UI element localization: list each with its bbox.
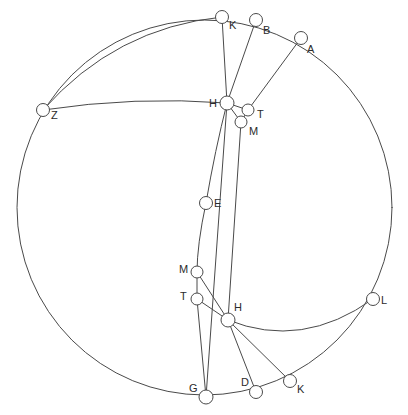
vertex-label-h-upper: H [209,97,217,109]
segment-A-T-upper [248,38,301,110]
vertex-label-t-lower: T [180,290,187,302]
vertex-node-t-lower[interactable] [191,293,203,305]
vertex-label-a-top: A [307,43,315,55]
vertex-node-z-left[interactable] [37,104,50,117]
vertex-node-d-bottom[interactable] [250,386,263,399]
vertex-node-h-lower[interactable] [221,313,235,327]
arc-Z-to-H-upper [43,101,227,110]
segment-M-upper-H-lower [228,122,241,320]
vertex-node-h-upper[interactable] [220,96,234,110]
arc-E-chain-lower [197,203,206,272]
vertex-label-m-lower: M [179,263,188,275]
vertex-label-k-top: K [229,19,237,31]
geometry-canvas: KBAZHTMEMTHLGDK [0,0,408,415]
nodes-group: KBAZHTMEMTHLGDK [37,11,388,405]
vertex-node-k-top[interactable] [216,11,229,24]
vertex-label-m-upper: M [249,125,258,137]
vertex-node-k-bottom[interactable] [284,375,297,388]
vertex-label-e-mid: E [214,197,221,209]
vertex-label-g-bottom: G [189,382,198,394]
arc-Z-to-K-top [43,17,222,110]
vertex-node-a-top[interactable] [295,32,308,45]
vertex-node-m-lower[interactable] [191,266,203,278]
vertex-node-l-right[interactable] [367,293,380,306]
arc-H-lower-to-L [228,299,373,331]
segment-B-H-upper [227,20,256,103]
vertex-node-m-upper[interactable] [235,116,247,128]
vertex-label-k-bottom: K [297,383,305,395]
arcs-group [43,17,373,331]
vertex-node-e-mid[interactable] [200,197,213,210]
vertex-node-g-bottom[interactable] [199,390,213,404]
vertex-node-t-upper[interactable] [242,104,254,116]
segments-group [197,17,301,397]
vertex-label-l-right: L [381,294,387,306]
vertex-node-b-top[interactable] [250,14,263,27]
vertex-label-h-lower: H [234,301,242,313]
vertex-label-z-left: Z [51,109,58,121]
vertex-label-d-bottom: D [241,376,249,388]
vertex-label-t-upper: T [257,108,264,120]
vertex-label-b-top: B [263,24,270,36]
segment-T-lower-G [197,299,206,397]
segment-K-H-upper [222,17,227,103]
diagram-root: KBAZHTMEMTHLGDK [0,0,408,415]
